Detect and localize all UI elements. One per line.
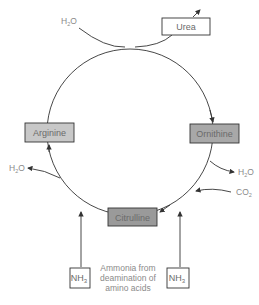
water-right-arrow (210, 161, 234, 172)
ammonia-caption-line3: amino acids (105, 283, 150, 293)
co2-label: CO2 (236, 187, 252, 198)
nh3-left-node: NH3 (70, 268, 90, 288)
water-top-label: H2O (61, 16, 77, 27)
ornithine-label: Ornithine (196, 129, 233, 139)
urea-label: Urea (176, 22, 196, 32)
citrulline-node: Citrulline (108, 208, 157, 226)
urea-node: Urea (162, 18, 210, 35)
ammonia-caption-line2: deamination of (100, 273, 156, 283)
arrow-to-ornithine (210, 110, 213, 122)
urea-out-curve (135, 35, 172, 47)
urea-cycle-diagram: Urea Arginine Ornithine Citrulline NH3 N… (0, 0, 259, 305)
urea-exit-arrow (193, 10, 200, 17)
water-left-arrow (28, 168, 60, 178)
ammonia-caption-line1: Ammonia from (100, 263, 155, 273)
water-right-label: H2O (238, 167, 254, 178)
ornithine-node: Ornithine (190, 124, 239, 143)
arginine-node: Arginine (25, 123, 74, 142)
water-left-label: H2O (9, 163, 25, 174)
water-in-curve (79, 28, 125, 47)
co2-in-arrow (196, 189, 231, 192)
arginine-label: Arginine (33, 128, 66, 138)
nh3-right-node: NH3 (167, 268, 189, 288)
citrulline-label: Citrulline (115, 213, 150, 223)
